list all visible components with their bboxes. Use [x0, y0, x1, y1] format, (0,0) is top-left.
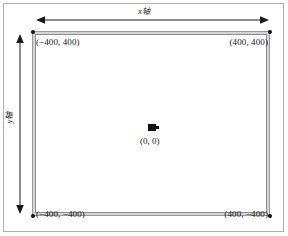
- corner-dot-top-right: [268, 30, 272, 34]
- coord-label-origin: (0, 0): [140, 136, 160, 146]
- y-axis-label-text: y轴: [5, 112, 14, 124]
- figure-canvas: x轴 y轴 (−400, 400) (400, 400) (−400, −400…: [0, 0, 288, 236]
- sprite-marker-icon: [148, 124, 156, 131]
- x-axis-arrow: [36, 14, 269, 26]
- coord-label-top-right: (400, 400): [230, 37, 269, 47]
- coord-label-bottom-left: (−400, −400): [36, 209, 85, 219]
- coord-label-top-left: (−400, 400): [36, 37, 80, 47]
- y-axis-label: y轴: [3, 93, 14, 143]
- corner-dot-bottom-left: [31, 214, 35, 218]
- corner-dot-bottom-right: [268, 214, 272, 218]
- coord-label-bottom-right: (400, −400): [224, 209, 268, 219]
- corner-dot-top-left: [31, 30, 35, 34]
- y-axis-arrow: [14, 34, 26, 214]
